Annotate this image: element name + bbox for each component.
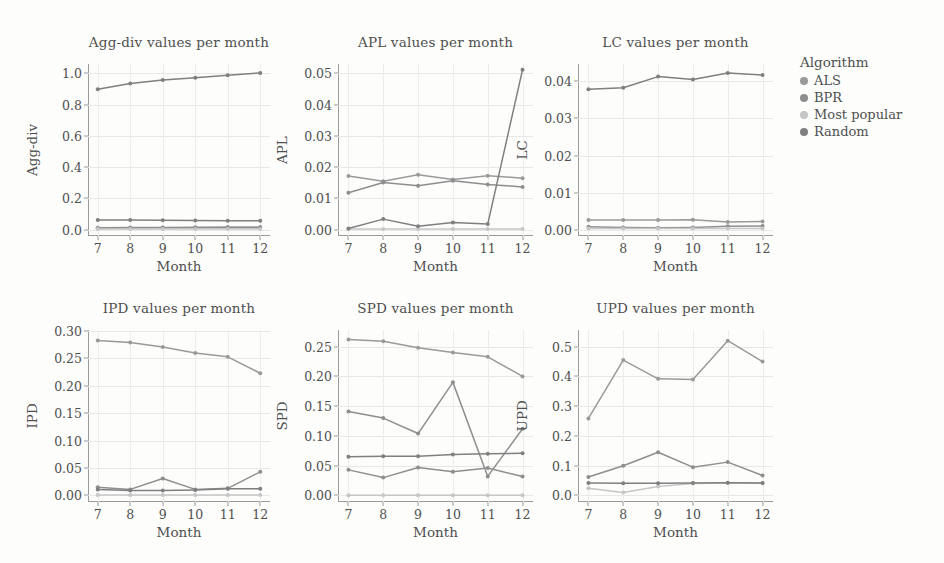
data-point (258, 219, 262, 223)
y-tick-label: 0.2 (552, 428, 578, 443)
data-point (726, 339, 730, 343)
legend-marker-icon (800, 128, 808, 136)
data-point (96, 218, 100, 222)
x-tick-label: 9 (654, 502, 662, 522)
data-point (451, 221, 455, 225)
data-point (621, 490, 625, 494)
data-point (691, 227, 695, 231)
data-point (346, 455, 350, 459)
data-point (346, 493, 350, 497)
data-point (586, 486, 590, 490)
data-point (258, 371, 262, 375)
data-point (193, 488, 197, 492)
series-line-als (98, 340, 261, 373)
data-point (726, 227, 730, 231)
y-tick-label: 0.15 (304, 399, 338, 414)
x-tick-label: 12 (252, 236, 268, 256)
x-tick-label: 10 (187, 502, 203, 522)
data-point (193, 219, 197, 223)
y-tick-label: 0.0 (552, 488, 578, 503)
legend-item-als[interactable]: ALS (800, 72, 902, 89)
data-point (96, 487, 100, 491)
data-point (691, 465, 695, 469)
data-point (726, 71, 730, 75)
x-tick-label: 9 (414, 502, 422, 522)
y-tick-label: 0.04 (544, 74, 578, 89)
y-tick-label: 0.05 (304, 458, 338, 473)
series-line-random (588, 483, 762, 484)
y-tick-label: 0.5 (552, 339, 578, 354)
y-tick-label: 0.1 (552, 458, 578, 473)
plot-area: 0.00.10.20.30.40.5789101112 (578, 330, 773, 502)
plot-area: 0.000.010.020.030.04789101112 (578, 64, 773, 236)
y-tick-label: 0.0 (62, 222, 88, 237)
data-point (451, 470, 455, 474)
y-tick-label: 0.01 (544, 185, 578, 200)
data-point (381, 454, 385, 458)
data-point (416, 493, 420, 497)
y-tick-label: 0.05 (304, 66, 338, 81)
data-point (193, 351, 197, 355)
y-axis-label: UPD (514, 400, 530, 431)
legend-item-bpr[interactable]: BPR (800, 89, 902, 106)
x-tick-label: 12 (252, 502, 268, 522)
x-tick-label: 11 (720, 502, 736, 522)
data-point (381, 416, 385, 420)
x-axis-label: Month (88, 258, 270, 274)
x-tick-label: 7 (584, 502, 592, 522)
x-axis-label: Month (338, 258, 533, 274)
data-point (416, 173, 420, 177)
series-line-bpr (588, 452, 762, 477)
y-axis-label: SPD (274, 401, 290, 430)
chart-legend: AlgorithmALSBPRMost popularRandom (800, 54, 902, 140)
y-tick-label: 0.20 (304, 369, 338, 384)
x-tick-label: 7 (94, 236, 102, 256)
y-tick-label: 0.05 (54, 461, 88, 476)
data-point (586, 218, 590, 222)
x-tick-label: 11 (220, 502, 236, 522)
data-point (346, 226, 350, 230)
data-point (586, 416, 590, 420)
data-point (586, 481, 590, 485)
y-tick-label: 0.01 (304, 191, 338, 206)
plot-area: 0.000.010.020.030.040.05789101112 (338, 64, 533, 236)
series-line-random (588, 73, 762, 89)
series-line-als (588, 220, 762, 222)
series-line-most-popular (588, 483, 762, 493)
legend-marker-icon (800, 94, 808, 102)
series-line-als (348, 340, 522, 377)
data-point (451, 380, 455, 384)
data-point (691, 481, 695, 485)
data-point (226, 355, 230, 359)
data-point (381, 339, 385, 343)
data-point (381, 217, 385, 221)
data-point (486, 227, 490, 231)
data-point (193, 227, 197, 231)
x-tick-label: 8 (379, 236, 387, 256)
data-point (128, 488, 132, 492)
x-tick-label: 12 (755, 502, 771, 522)
x-tick-label: 7 (584, 236, 592, 256)
x-tick-label: 7 (344, 502, 352, 522)
x-tick-label: 8 (619, 236, 627, 256)
plot-area: 0.00.20.40.60.81.0789101112 (88, 64, 270, 236)
series-layer (578, 64, 773, 236)
data-point (761, 481, 765, 485)
data-point (621, 86, 625, 90)
series-layer (338, 64, 533, 236)
data-point (621, 227, 625, 231)
legend-item-most-popular[interactable]: Most popular (800, 106, 902, 123)
data-point (416, 224, 420, 228)
series-line-random (348, 70, 522, 229)
y-tick-label: 0.4 (552, 369, 578, 384)
data-point (761, 360, 765, 364)
data-point (691, 377, 695, 381)
legend-marker-icon (800, 111, 808, 119)
legend-item-label: ALS (814, 72, 841, 89)
data-point (416, 432, 420, 436)
data-point (226, 227, 230, 231)
y-tick-label: 0.3 (552, 399, 578, 414)
y-tick-label: 0.15 (54, 406, 88, 421)
y-tick-label: 0.04 (304, 97, 338, 112)
legend-item-random[interactable]: Random (800, 123, 902, 140)
